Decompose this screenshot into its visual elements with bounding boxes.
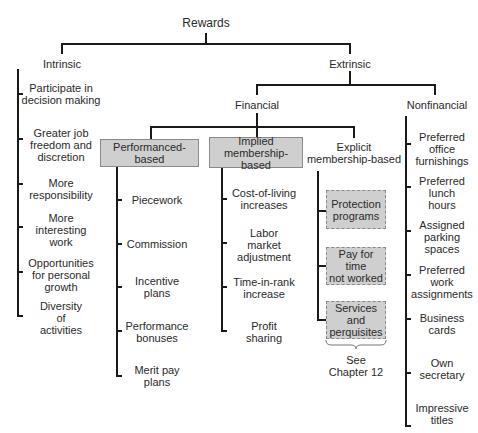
nonfinancial-item: Business cards bbox=[420, 312, 465, 336]
implied-item: Cost-of-living increases bbox=[232, 187, 296, 211]
implied-item: Profit sharing bbox=[246, 320, 282, 344]
performance-item: Incentive plans bbox=[135, 275, 179, 299]
services-perquisites-box: Services and perquisites bbox=[326, 301, 386, 339]
see-chapter-note: See Chapter 12 bbox=[329, 354, 383, 378]
nonfinancial-label: Nonfinancial bbox=[407, 99, 468, 111]
intrinsic-item: Opportunities for personal growth bbox=[28, 257, 93, 293]
explicit-membership-label: Explicit membership-based bbox=[307, 141, 401, 165]
performance-item: Merit pay plans bbox=[134, 364, 179, 388]
protection-programs-box: Protection programs bbox=[326, 190, 386, 229]
nonfinancial-item: Preferred lunch hours bbox=[419, 175, 465, 211]
implied-item: Time-in-rank increase bbox=[233, 276, 294, 300]
intrinsic-item: More interesting work bbox=[36, 212, 87, 248]
intrinsic-item: Participate in decision making bbox=[22, 82, 101, 106]
performance-item: Commission bbox=[127, 238, 188, 250]
performance-item: Performance bonuses bbox=[126, 320, 189, 344]
root-rewards: Rewards bbox=[182, 17, 229, 29]
nonfinancial-item: Impressive titles bbox=[415, 402, 468, 426]
intrinsic-item: Diversity of activities bbox=[40, 300, 82, 336]
intrinsic-label: Intrinsic bbox=[43, 58, 81, 70]
brace-icon bbox=[326, 340, 386, 349]
nonfinancial-item: Own secretary bbox=[419, 357, 464, 381]
intrinsic-item: More responsibility bbox=[29, 177, 93, 201]
performance-based-box: Performanced-based bbox=[100, 139, 199, 167]
pay-for-time-box: Pay for time not worked bbox=[326, 247, 386, 285]
nonfinancial-item: Preferred office furnishings bbox=[415, 131, 468, 167]
implied-membership-box: Implied membership-based bbox=[209, 137, 303, 168]
financial-label: Financial bbox=[235, 99, 279, 111]
implied-item: Labor market adjustment bbox=[237, 227, 291, 263]
performance-item: Piecework bbox=[132, 194, 183, 206]
extrinsic-label: Extrinsic bbox=[329, 58, 371, 70]
intrinsic-item: Greater job freedom and discretion bbox=[30, 127, 92, 163]
nonfinancial-item: Assigned parking spaces bbox=[419, 219, 464, 255]
nonfinancial-item: Preferred work assignments bbox=[411, 264, 473, 300]
